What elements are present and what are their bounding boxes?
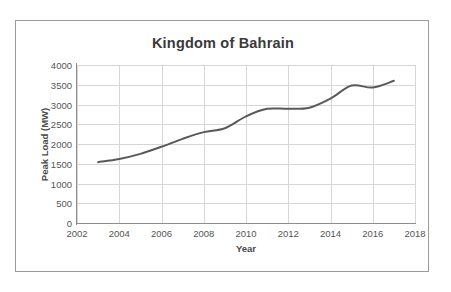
x-tick-label: 2018 — [404, 228, 425, 239]
x-tick-label: 2002 — [66, 228, 87, 239]
y-tick-label: 2500 — [51, 119, 72, 130]
y-tick-label: 3000 — [51, 99, 72, 110]
x-tick-label: 2010 — [235, 228, 256, 239]
chart-frame: Kingdom of Bahrain Peak Load (MW) Year 0… — [15, 20, 429, 272]
x-tick-label: 2016 — [362, 228, 383, 239]
x-tick-label: 2004 — [109, 228, 130, 239]
x-tick-label: 2008 — [193, 228, 214, 239]
x-tick-label: 2014 — [320, 228, 341, 239]
y-tick-label: 500 — [56, 198, 72, 209]
y-tick-label: 1000 — [51, 178, 72, 189]
y-axis-label-text: Peak Load (MW) — [40, 107, 51, 180]
chart-title: Kingdom of Bahrain — [16, 35, 430, 51]
y-tick-label: 2000 — [51, 139, 72, 150]
x-axis-label: Year — [77, 243, 415, 254]
x-tick-label: 2012 — [278, 228, 299, 239]
plot-area: 05001000150020002500300035004000 2002200… — [77, 65, 415, 223]
x-tick-label: 2006 — [151, 228, 172, 239]
y-tick-label: 1500 — [51, 158, 72, 169]
y-tick-label: 4000 — [51, 60, 72, 71]
y-tick-label: 3500 — [51, 79, 72, 90]
gridline-vertical — [415, 65, 416, 223]
chart-page: Kingdom of Bahrain Peak Load (MW) Year 0… — [0, 0, 451, 292]
y-tick-label: 0 — [67, 218, 72, 229]
series-line-peak-load — [77, 65, 415, 223]
